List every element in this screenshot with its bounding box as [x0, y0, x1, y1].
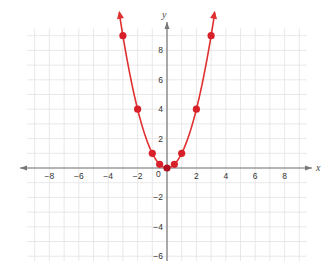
data-point	[171, 161, 178, 168]
data-point	[156, 161, 163, 168]
y-tick-label: −4	[153, 222, 163, 232]
y-axis-arrow-up-icon	[165, 22, 170, 29]
data-point	[119, 32, 126, 39]
x-tick-label: −6	[74, 171, 84, 181]
x-tick-label: 4	[223, 171, 228, 181]
x-tick-label: 8	[282, 171, 287, 181]
data-point	[163, 164, 170, 171]
data-point	[178, 150, 185, 157]
data-point	[134, 106, 141, 113]
y-tick-label: 4	[158, 104, 163, 114]
x-tick-label: −4	[103, 171, 113, 181]
origin-label: 0	[156, 169, 161, 179]
x-axis-arrow-left-icon	[20, 166, 27, 171]
y-axis-label: y	[161, 9, 167, 20]
y-tick-label: −6	[153, 251, 163, 261]
x-tick-label: −2	[133, 171, 143, 181]
data-point	[193, 106, 200, 113]
curve-arrow-right-icon	[210, 11, 217, 19]
y-tick-label: 2	[158, 134, 163, 144]
x-tick-label: −8	[45, 171, 55, 181]
x-axis-arrow-right-icon	[305, 166, 312, 171]
data-point	[208, 32, 215, 39]
y-tick-label: 6	[158, 75, 163, 85]
y-tick-label: −2	[153, 192, 163, 202]
x-tick-label: 2	[194, 171, 199, 181]
x-tick-label: 6	[253, 171, 258, 181]
x-axis-label: x	[315, 162, 321, 173]
data-point	[149, 150, 156, 157]
y-tick-label: 8	[158, 45, 163, 55]
parabola-chart: −8−6−4−224688642−2−4−6 x y 0	[0, 0, 334, 261]
curve-arrow-left-icon	[117, 11, 124, 19]
